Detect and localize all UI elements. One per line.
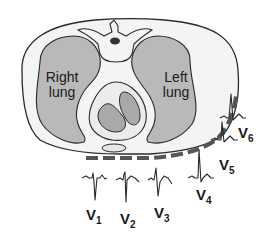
lead-label-v2: V2 bbox=[120, 210, 136, 230]
left-lung-label-line2: lung bbox=[156, 85, 196, 100]
waveform-v2 bbox=[116, 172, 139, 202]
lead-label-v5: V5 bbox=[219, 156, 235, 176]
thorax-cross-section bbox=[0, 0, 268, 239]
lead-label-v6: V6 bbox=[238, 124, 254, 144]
left-lung-label-line1: Left bbox=[156, 70, 196, 85]
ecg-lead-diagram: Right lung Left lung V1 V2 V3 V4 V5 V6 bbox=[0, 0, 268, 239]
sternum bbox=[102, 144, 126, 152]
right-lung-label-line2: lung bbox=[40, 85, 84, 100]
waveform-v4 bbox=[188, 150, 214, 182]
lead-label-v3: V3 bbox=[154, 204, 170, 224]
waveform-v1 bbox=[82, 173, 107, 200]
waveform-v3 bbox=[148, 168, 172, 196]
lead-label-v4: V4 bbox=[196, 186, 212, 206]
lead-label-v1: V1 bbox=[86, 206, 102, 226]
right-lung-label: Right lung bbox=[40, 70, 84, 100]
right-lung-label-line1: Right bbox=[40, 70, 84, 85]
left-lung-label: Left lung bbox=[156, 70, 196, 100]
